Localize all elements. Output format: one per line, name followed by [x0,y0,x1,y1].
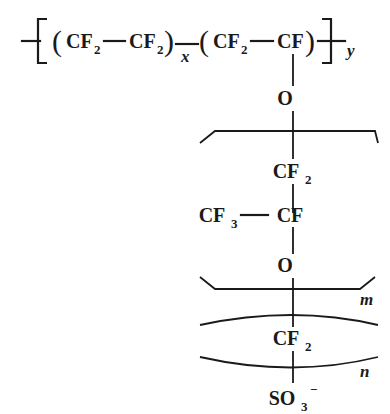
sidechain-so3-label: SO [269,387,296,409]
unit1-left-sub: 2 [94,42,101,57]
group-n-open-bracket [200,315,378,325]
sidechain-cf2b-sub: 2 [305,339,312,354]
close-paren-2: ) [305,24,315,58]
chemical-structure-diagram: ( CF 2 CF 2 ) x ( CF 2 CF ) y O CF 2 [0,0,390,414]
unit1-left-label: CF [66,30,93,52]
index-m: m [360,290,373,309]
group-m-open-bracket [200,131,378,143]
group-n-close-bracket [200,357,378,368]
index-y: y [345,41,355,60]
structure-canvas: ( CF 2 CF 2 ) x ( CF 2 CF ) y O CF 2 [0,0,390,414]
unit1-right-sub: 2 [157,42,164,57]
sidechain-cf2a-sub: 2 [305,172,312,187]
close-paren-1: ) [164,24,174,58]
sidechain-so3-sub: 3 [301,399,308,414]
sidechain-cf2a-label: CF [273,160,300,182]
unit2-left-sub: 2 [241,42,248,57]
sidechain-o1-label: O [277,87,293,109]
sidechain-so3-charge: − [310,382,317,397]
open-paren-1: ( [52,24,62,58]
index-x: x [180,47,190,66]
sidechain-cf-label: CF [277,204,304,226]
branch-cf3-sub: 3 [231,216,238,231]
sidechain-o2-label: O [277,254,293,276]
branch-cf3-label: CF [199,204,226,226]
sidechain-cf2b-label: CF [273,327,300,349]
group-m-close-bracket [200,277,375,289]
index-n: n [360,362,369,381]
unit2-right-label: CF [277,30,304,52]
unit2-left-label: CF [213,30,240,52]
unit1-right-label: CF [129,30,156,52]
open-paren-2: ( [199,24,209,58]
